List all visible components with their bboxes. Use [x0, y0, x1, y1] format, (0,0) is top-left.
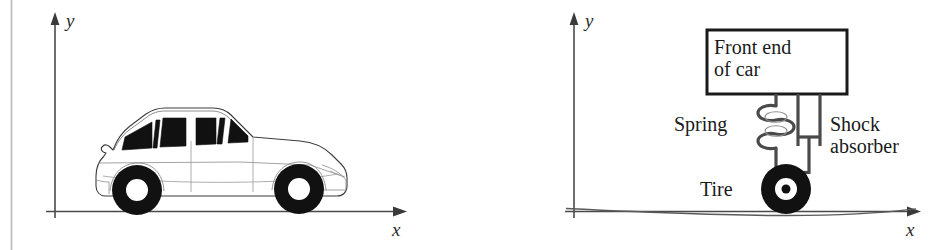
car-window-rear-mid-pane	[160, 118, 186, 147]
spring-label: Spring	[674, 113, 727, 136]
right-x-axis-label: x	[905, 219, 915, 240]
tire-label: Tire	[700, 178, 733, 200]
left-x-axis-label: x	[391, 219, 401, 240]
car-front-wheel	[274, 164, 324, 214]
car-window-front-rear-pane	[196, 118, 216, 145]
shock-label-line2: absorber	[830, 135, 899, 157]
shock-label-line1: Shock	[830, 113, 880, 135]
figure-canvas: y x	[0, 0, 951, 250]
right-y-axis-label: y	[583, 10, 594, 31]
left-y-axis-label: y	[64, 10, 75, 31]
textbook-figure: y x	[0, 0, 951, 250]
car-body-label-line2: of car	[714, 58, 760, 80]
tire-hub	[782, 185, 791, 194]
car-body-label-line1: Front end	[714, 36, 791, 58]
tire-assembly	[761, 164, 811, 214]
car-rear-wheel	[112, 165, 162, 215]
